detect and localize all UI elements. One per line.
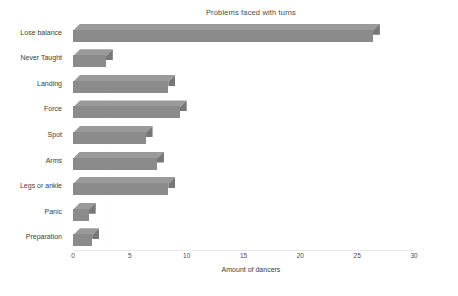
bar-front-face bbox=[73, 158, 157, 170]
bar-legs-or-ankle bbox=[73, 177, 175, 195]
bar-preparation bbox=[73, 228, 99, 246]
bar-front-face bbox=[73, 106, 180, 118]
bar-chart: Problems faced with turns Lose balanceNe… bbox=[0, 0, 458, 296]
x-axis-tick: 20 bbox=[297, 252, 304, 259]
bar-landing bbox=[73, 75, 175, 93]
bar-spot bbox=[73, 126, 153, 144]
bar-front-face bbox=[73, 183, 168, 195]
bar-never-taught bbox=[73, 49, 113, 67]
x-axis-title: Amount of dancers bbox=[0, 266, 458, 273]
x-axis-tick: 25 bbox=[354, 252, 361, 259]
bar-row bbox=[73, 152, 414, 170]
bar-force bbox=[73, 100, 187, 118]
x-axis-tick-labels: 051015202530 bbox=[0, 252, 458, 264]
x-axis-tick: 30 bbox=[410, 252, 417, 259]
bar-row bbox=[73, 126, 414, 144]
bar-front-face bbox=[73, 132, 146, 144]
x-axis-tick: 10 bbox=[183, 252, 190, 259]
y-axis-label: Never Taught bbox=[20, 54, 62, 61]
bar-front-face bbox=[73, 55, 106, 67]
bar-row bbox=[73, 100, 414, 118]
y-axis-label: Lose balance bbox=[20, 29, 62, 36]
y-axis-label: Force bbox=[44, 105, 62, 112]
y-axis-label: Arms bbox=[46, 157, 62, 164]
y-axis-label: Legs or ankle bbox=[20, 182, 62, 189]
x-axis-tick: 15 bbox=[240, 252, 247, 259]
bar-arms bbox=[73, 152, 164, 170]
bar-front-face bbox=[73, 81, 168, 93]
x-axis-tick: 0 bbox=[71, 252, 75, 259]
x-axis-tick: 5 bbox=[128, 252, 132, 259]
bar-lose-balance bbox=[73, 24, 380, 42]
bar-front-face bbox=[73, 30, 373, 42]
y-axis-label: Preparation bbox=[26, 233, 62, 240]
y-axis-category-labels: Lose balanceNever TaughtLandingForceSpot… bbox=[0, 20, 68, 250]
bar-row bbox=[73, 177, 414, 195]
bar-front-face bbox=[73, 234, 92, 246]
x-axis-title-text: Amount of dancers bbox=[222, 266, 281, 273]
chart-title-text: Problems faced with turns bbox=[206, 8, 296, 17]
y-axis-label: Panic bbox=[44, 208, 62, 215]
y-axis-label: Landing bbox=[37, 80, 62, 87]
bar-panic bbox=[73, 203, 96, 221]
plot-area bbox=[73, 20, 414, 250]
bar-row bbox=[73, 24, 414, 42]
bar-row bbox=[73, 75, 414, 93]
chart-title: Problems faced with turns bbox=[0, 8, 458, 17]
bar-row bbox=[73, 49, 414, 67]
x-axis-line bbox=[73, 250, 414, 251]
bar-row bbox=[73, 228, 414, 246]
bar-front-face bbox=[73, 209, 89, 221]
y-axis-label: Spot bbox=[48, 131, 62, 138]
bar-row bbox=[73, 203, 414, 221]
